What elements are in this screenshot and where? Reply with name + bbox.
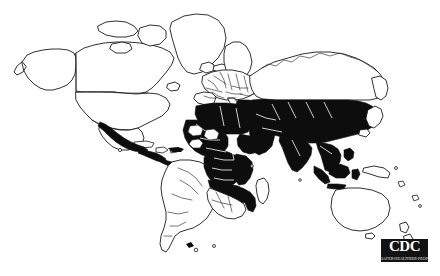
- world-map-figure: CDC SAFER·HEALTHIER·PEOPLE: [0, 0, 440, 276]
- cdc-logo-text: CDC: [381, 239, 428, 254]
- cdc-logo: CDC SAFER·HEALTHIER·PEOPLE: [381, 239, 428, 262]
- cdc-logo-tagline: SAFER·HEALTHIER·PEOPLE: [381, 256, 428, 262]
- island-dot-3: [213, 245, 216, 248]
- island-newfoundland: [167, 82, 180, 91]
- island-dot-2: [194, 248, 198, 252]
- island-british-isles: [200, 62, 214, 73]
- shaded-java: [327, 184, 346, 189]
- island-dot-1: [118, 148, 121, 151]
- island-dot-4: [251, 165, 254, 168]
- island-dot-6: [419, 205, 422, 208]
- island-dot-7: [299, 179, 302, 182]
- island-victoria: [110, 42, 132, 53]
- world-map-graphic: [0, 0, 440, 276]
- island-dot-5: [395, 167, 398, 170]
